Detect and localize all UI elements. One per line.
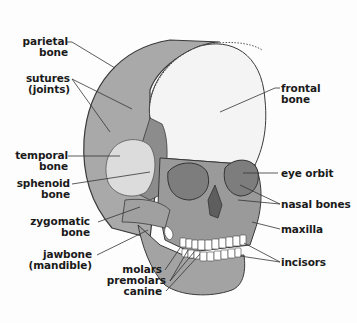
label-eye-orbit: eye orbit <box>281 168 333 179</box>
label-zygomatic-line2: bone <box>20 227 90 238</box>
label-nasal-bones: nasal bones <box>281 199 351 210</box>
label-canine: canine <box>100 286 162 297</box>
label-sphenoid-bone: sphenoid bone <box>6 178 70 200</box>
leader-parietal <box>66 42 115 68</box>
label-canine-text: canine <box>100 286 162 297</box>
label-jawbone: jawbone (mandible) <box>20 249 92 271</box>
leader-jawbone <box>97 230 148 255</box>
label-jawbone-line2: (mandible) <box>20 260 92 271</box>
label-maxilla-text: maxilla <box>281 224 323 235</box>
right-orbit <box>224 160 258 196</box>
label-zygomatic-bone: zygomatic bone <box>20 216 90 238</box>
skull-diagram: parietal bone sutures (joints) temporal … <box>0 0 357 323</box>
label-temporal-line2: bone <box>6 161 68 172</box>
temporal-bone <box>106 140 155 196</box>
label-nasal-bones-text: nasal bones <box>281 199 351 210</box>
label-sutures-line2: (joints) <box>18 84 70 95</box>
label-parietal-line2: bone <box>18 47 68 58</box>
label-temporal-bone: temporal bone <box>6 150 68 172</box>
label-frontal-bone: frontal bone <box>281 83 320 105</box>
label-sutures: sutures (joints) <box>18 73 70 95</box>
label-frontal-line2: bone <box>281 94 320 105</box>
label-parietal-bone: parietal bone <box>18 36 68 58</box>
label-sphenoid-line2: bone <box>6 189 70 200</box>
label-incisors-text: incisors <box>281 257 326 268</box>
label-incisors: incisors <box>281 257 326 268</box>
label-maxilla: maxilla <box>281 224 323 235</box>
label-eye-orbit-text: eye orbit <box>281 168 333 179</box>
